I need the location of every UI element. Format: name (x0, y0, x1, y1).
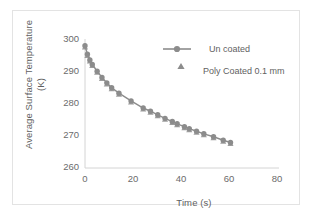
series-poly-coated (82, 44, 234, 146)
legend-markers (163, 46, 191, 69)
series-line (85, 46, 231, 143)
data-series-layer (82, 43, 234, 146)
legend-item-uncoated: Un coated (209, 44, 250, 54)
x-tick-label: 60 (216, 173, 242, 184)
y-tick-label: 270 (53, 129, 79, 140)
y-axis-title-line2: (K) (34, 20, 46, 150)
x-tick-label: 0 (72, 173, 98, 184)
legend-triangle-marker-icon (177, 63, 184, 69)
y-tick-label: 280 (53, 97, 79, 108)
chart-frame: Average Surface Temperature (K) Time (s)… (12, 10, 300, 205)
y-axis-title: Average Surface Temperature (K) (23, 20, 46, 150)
legend-circle-marker-icon (174, 46, 180, 52)
x-tick-label: 40 (168, 173, 194, 184)
chart-figure: Average Surface Temperature (K) Time (s)… (0, 0, 311, 215)
series-uncoated (82, 43, 233, 145)
x-tick-label: 20 (120, 173, 146, 184)
y-axis-title-line1: Average Surface Temperature (23, 20, 34, 149)
x-tick-label: 80 (264, 173, 290, 184)
y-tick-label: 290 (53, 65, 79, 76)
axis-lines (85, 39, 279, 168)
y-tick-label: 260 (53, 161, 79, 172)
y-tick-label: 300 (53, 33, 79, 44)
legend-item-poly-coated: Poly Coated 0.1 mm (203, 66, 285, 76)
x-axis-title: Time (s) (97, 197, 291, 208)
